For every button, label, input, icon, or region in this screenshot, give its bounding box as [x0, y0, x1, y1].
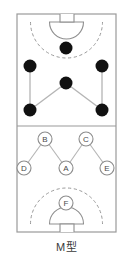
position-label-f: F: [64, 199, 69, 208]
formation-diagram-figure: B C D A E F M型: [0, 0, 133, 268]
figure-caption: M型: [0, 240, 133, 254]
position-marker-b: B: [38, 132, 52, 146]
top-goal-frame: [60, 13, 74, 22]
player-dot-upper-left: [24, 60, 37, 73]
position-label-a: A: [63, 164, 69, 173]
player-dot-center: [60, 77, 73, 90]
position-label-b: B: [42, 135, 47, 144]
player-dot-lower-right: [96, 104, 109, 117]
position-marker-f: F: [59, 196, 73, 210]
player-dot-top-center: [60, 42, 73, 55]
position-label-e: E: [104, 164, 109, 173]
position-label-d: D: [21, 164, 27, 173]
court-diagram: B C D A E F: [0, 0, 133, 268]
position-label-c: C: [83, 135, 89, 144]
position-marker-c: C: [79, 132, 93, 146]
position-marker-d: D: [17, 161, 31, 175]
bottom-goal-frame: [60, 224, 74, 233]
player-dot-upper-right: [96, 60, 109, 73]
player-dot-lower-left: [24, 104, 37, 117]
position-marker-e: E: [100, 161, 114, 175]
position-marker-a: A: [59, 161, 73, 175]
